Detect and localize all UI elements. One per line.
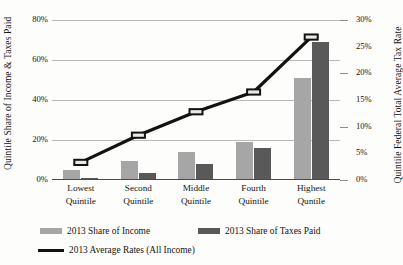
x-category-label: MiddleQuintile — [167, 182, 225, 207]
line-marker — [132, 133, 145, 138]
y-tick-label-right: 30% — [356, 14, 372, 24]
x-category-label-line: Quntile — [282, 195, 340, 208]
y-tick-label-right: 10% — [356, 121, 372, 131]
average-rates-line-series — [52, 20, 340, 180]
x-category-label: LowestQuintile — [52, 182, 110, 207]
line-marker — [74, 160, 87, 165]
y-tick-label-left: 0% — [12, 174, 48, 184]
y-tick-label-right: 5% — [356, 147, 367, 157]
line-path-average-rates — [81, 37, 311, 162]
x-category-label-line: Quintile — [225, 195, 283, 208]
legend-swatch-line-icon — [38, 249, 64, 252]
y-tick-label-right: 15% — [356, 94, 372, 104]
legend-label-rates: 2013 Average Rates (All Income) — [69, 245, 195, 255]
legend-item-average-rates: 2013 Average Rates (All Income) — [38, 245, 195, 255]
y-tick-mark-right — [340, 180, 348, 181]
y-tick-label-right: 0% — [356, 174, 367, 184]
y-axis-title-right: Quintile Federal Total Average Tax Rate — [393, 25, 403, 185]
y-tick-label-right: 20% — [356, 67, 372, 77]
y-tick-mark-right — [340, 127, 348, 128]
plot-area — [52, 20, 340, 180]
line-marker — [247, 89, 260, 94]
legend-item-share-of-taxes-paid: 2013 Share of Taxes Paid — [198, 226, 321, 236]
x-category-label: HighestQuntile — [282, 182, 340, 207]
legend-label-taxes: 2013 Share of Taxes Paid — [225, 226, 321, 236]
x-category-label-line: Quintile — [167, 195, 225, 208]
y-tick-label-left: 80% — [12, 14, 48, 24]
legend-label-income: 2013 Share of Income — [67, 226, 150, 236]
x-category-label-line: Middle — [167, 182, 225, 195]
x-category-label-line: Second — [110, 182, 168, 195]
x-category-label-line: Quintile — [110, 195, 168, 208]
y-tick-label-right: 25% — [356, 41, 372, 51]
chart-legend: 2013 Share of Income 2013 Share of Taxes… — [0, 222, 396, 265]
legend-item-share-of-income: 2013 Share of Income — [40, 226, 150, 236]
legend-swatch-taxes-icon — [198, 228, 220, 234]
line-marker — [190, 109, 203, 114]
x-axis-baseline — [52, 179, 340, 180]
x-category-label-line: Quintile — [52, 195, 110, 208]
y-tick-mark-right — [340, 73, 348, 74]
legend-swatch-income-icon — [40, 228, 62, 234]
x-axis-category-labels: LowestQuintileSecondQuintileMiddleQuinti… — [52, 182, 340, 220]
y-tick-mark-right — [340, 20, 348, 21]
line-marker — [305, 34, 318, 39]
x-category-label-line: Highest — [282, 182, 340, 195]
y-tick-label-left: 40% — [12, 94, 48, 104]
x-category-label-line: Fourth — [225, 182, 283, 195]
y-tick-label-left: 60% — [12, 54, 48, 64]
x-category-label: SecondQuintile — [110, 182, 168, 207]
x-category-label: FourthQuintile — [225, 182, 283, 207]
x-category-label-line: Lowest — [52, 182, 110, 195]
y-tick-label-left: 20% — [12, 134, 48, 144]
